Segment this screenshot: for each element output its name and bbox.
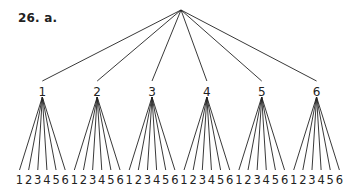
node-leaf: 4 <box>208 173 215 187</box>
node-leaf: 5 <box>217 173 224 187</box>
node-level1: 5 <box>258 85 266 99</box>
node-leaf: 2 <box>80 173 87 187</box>
node-leaf: 4 <box>43 173 50 187</box>
node-leaf: 1 <box>16 173 23 187</box>
node-leaf: 3 <box>89 173 96 187</box>
node-leaf: 2 <box>25 173 32 187</box>
node-leaf: 2 <box>189 173 196 187</box>
node-leaf: 6 <box>171 173 178 187</box>
node-leaf: 1 <box>71 173 78 187</box>
node-level1: 1 <box>39 85 47 99</box>
node-leaf: 4 <box>98 173 105 187</box>
node-leaf: 5 <box>52 173 59 187</box>
node-leaf: 3 <box>144 173 151 187</box>
node-leaf: 6 <box>62 173 69 187</box>
node-leaf: 4 <box>263 173 270 187</box>
node-leaf: 4 <box>153 173 160 187</box>
node-leaf: 5 <box>162 173 169 187</box>
node-leaf: 3 <box>253 173 260 187</box>
node-leaf: 4 <box>317 173 324 187</box>
node-leaf: 6 <box>281 173 288 187</box>
node-leaf: 1 <box>180 173 187 187</box>
node-leaf: 1 <box>290 173 297 187</box>
node-leaf: 6 <box>226 173 233 187</box>
node-leaf: 3 <box>34 173 41 187</box>
node-leaf: 2 <box>244 173 251 187</box>
node-leaf: 6 <box>336 173 343 187</box>
node-level1: 3 <box>148 85 156 99</box>
node-leaf: 1 <box>235 173 242 187</box>
node-leaf: 1 <box>126 173 133 187</box>
node-leaf: 3 <box>308 173 315 187</box>
node-level1: 4 <box>203 85 211 99</box>
node-leaf: 2 <box>299 173 306 187</box>
node-leaf: 5 <box>272 173 279 187</box>
node-leaf: 2 <box>135 173 142 187</box>
tree-diagram: 1123456212345631234564123456512345661234… <box>0 0 359 192</box>
edge-root-to-3 <box>152 10 181 81</box>
node-leaf: 5 <box>327 173 334 187</box>
node-level1: 6 <box>313 85 321 99</box>
node-leaf: 5 <box>107 173 114 187</box>
edge-root-to-1 <box>42 10 181 81</box>
edge-root-to-2 <box>97 10 181 81</box>
node-leaf: 6 <box>116 173 123 187</box>
node-level1: 2 <box>93 85 101 99</box>
edge-root-to-4 <box>181 10 207 81</box>
node-leaf: 3 <box>199 173 206 187</box>
edge-root-to-6 <box>181 10 317 81</box>
